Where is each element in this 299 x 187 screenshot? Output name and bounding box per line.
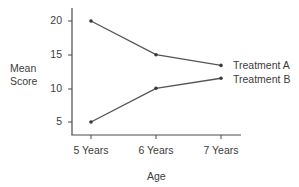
data-point-marker <box>154 87 158 91</box>
series-label-treatment-b: Treatment B <box>233 74 290 85</box>
x-ticks <box>91 135 221 139</box>
series-markers-treatment-b <box>89 76 223 123</box>
y-tick-label-15: 15 <box>42 49 62 60</box>
series-markers-treatment-a <box>89 19 223 67</box>
data-point-marker <box>219 76 223 80</box>
y-tick-label-10: 10 <box>42 83 62 94</box>
y-tick-label-20: 20 <box>42 15 62 26</box>
x-tick-label-5-years: 5 Years <box>61 145 121 156</box>
data-point-marker <box>154 53 158 57</box>
series-line-treatment-b <box>91 78 221 122</box>
y-tick-label-5: 5 <box>42 116 62 127</box>
data-point-marker <box>89 19 93 23</box>
y-axis-label-line1: Mean <box>10 63 36 74</box>
series-line-treatment-a <box>91 21 221 65</box>
series-label-treatment-a: Treatment A <box>233 60 290 71</box>
line-chart <box>0 0 299 187</box>
data-point-marker <box>219 64 223 68</box>
data-point-marker <box>89 120 93 124</box>
x-tick-label-6-years: 6 Years <box>126 145 186 156</box>
x-tick-label-7-years: 7 Years <box>191 145 251 156</box>
y-axis-label-line2: Score <box>10 76 37 87</box>
x-axis-label: Age <box>147 171 166 182</box>
